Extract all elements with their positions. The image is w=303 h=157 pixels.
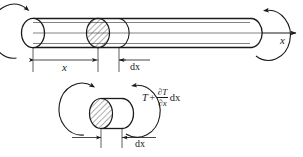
partial-derivative-fraction: ∂T ∂x [157, 87, 168, 109]
torque-symbol-T: T [142, 93, 148, 104]
torque-formula: T + ∂T ∂x dx [142, 87, 180, 109]
slice-hatched-face [90, 99, 113, 129]
torque-differential-dx: dx [170, 93, 181, 104]
label-dimension-x: x [62, 62, 67, 73]
label-axis-x: x [280, 35, 285, 46]
element-torque-arrow-left[interactable] [59, 83, 93, 135]
label-torque-expression: T + ∂T ∂x dx [142, 87, 180, 109]
cut-section-hatched-disk [87, 18, 110, 47]
figure-svg [0, 0, 303, 157]
fraction-denominator: ∂x [157, 98, 168, 108]
torsion-shaft-figure: x dx x dx T + ∂T ∂x dx [0, 0, 303, 157]
slice-right-cap [122, 99, 134, 129]
label-dimension-dx: dx [130, 62, 140, 72]
fraction-numerator: ∂T [157, 87, 168, 98]
label-element-dimension-dx: dx [135, 139, 145, 149]
top-shaft-group [0, 4, 296, 72]
torque-plus-sign: + [149, 93, 155, 104]
